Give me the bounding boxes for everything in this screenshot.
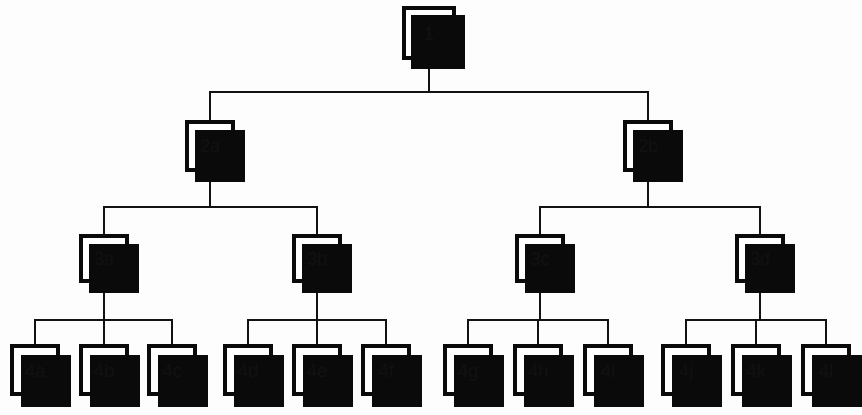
tree-node-4g[interactable]: 4g bbox=[443, 344, 493, 396]
connector-2b-bus bbox=[539, 206, 760, 208]
tree-diagram-canvas: 1 2a 2b 3a 3b 3c 3d 4a 4b 4c 4d bbox=[0, 0, 862, 415]
tree-node-label: 2b bbox=[638, 137, 658, 155]
connector-drop-2b bbox=[647, 91, 649, 121]
tree-node-4k[interactable]: 4k bbox=[731, 344, 781, 396]
connector-2a-bus bbox=[103, 206, 318, 208]
tree-node-label: 3a bbox=[94, 250, 114, 268]
connector-drop-4g bbox=[467, 319, 469, 345]
tree-node-label: 4d bbox=[238, 361, 259, 380]
tree-node-label: 4a bbox=[25, 361, 46, 380]
connector-drop-4b bbox=[103, 319, 105, 345]
tree-node-label: 2a bbox=[200, 137, 220, 155]
tree-node-4f[interactable]: 4f bbox=[361, 344, 411, 396]
tree-node-label: 3b bbox=[307, 250, 327, 268]
connector-drop-4d bbox=[247, 319, 249, 345]
connector-drop-3a bbox=[103, 206, 105, 235]
tree-node-label: 4e bbox=[307, 361, 328, 380]
tree-node-label: 4i bbox=[601, 361, 615, 380]
tree-node-1[interactable]: 1 bbox=[402, 6, 456, 60]
connector-root-bus bbox=[209, 91, 649, 93]
tree-node-label: 4b bbox=[94, 361, 115, 380]
tree-node-label: 4f bbox=[378, 361, 393, 380]
connector-drop-4a bbox=[34, 319, 36, 345]
tree-node-3d[interactable]: 3d bbox=[735, 234, 785, 283]
connector-drop-4e bbox=[316, 319, 318, 345]
tree-node-3a[interactable]: 3a bbox=[79, 234, 129, 283]
node-shadow bbox=[411, 15, 465, 69]
tree-node-4a[interactable]: 4a bbox=[10, 344, 60, 396]
connector-drop-3d bbox=[759, 206, 761, 235]
tree-node-3c[interactable]: 3c bbox=[515, 234, 565, 283]
connector-drop-3c bbox=[539, 206, 541, 235]
tree-node-4c[interactable]: 4c bbox=[147, 344, 197, 396]
connector-drop-4c bbox=[171, 319, 173, 345]
connector-drop-4l bbox=[825, 319, 827, 345]
tree-node-label: 4j bbox=[679, 361, 693, 380]
tree-node-label: 1 bbox=[424, 24, 434, 43]
connector-drop-2a bbox=[209, 91, 211, 121]
connector-drop-4i bbox=[607, 319, 609, 345]
tree-node-label: 3c bbox=[531, 250, 550, 268]
tree-node-4b[interactable]: 4b bbox=[79, 344, 129, 396]
tree-node-4j[interactable]: 4j bbox=[661, 344, 711, 396]
tree-node-label: 4k bbox=[746, 361, 766, 380]
tree-node-2a[interactable]: 2a bbox=[185, 120, 235, 172]
tree-node-label: 3d bbox=[750, 250, 770, 268]
tree-node-4i[interactable]: 4i bbox=[583, 344, 633, 396]
connector-drop-4j bbox=[685, 319, 687, 345]
tree-node-2b[interactable]: 2b bbox=[623, 120, 673, 172]
tree-node-label: 4h bbox=[528, 361, 549, 380]
tree-node-4l[interactable]: 4l bbox=[801, 344, 851, 396]
connector-drop-4k bbox=[755, 319, 757, 345]
tree-node-label: 4c bbox=[162, 361, 182, 380]
tree-node-3b[interactable]: 3b bbox=[292, 234, 342, 283]
tree-node-4d[interactable]: 4d bbox=[223, 344, 273, 396]
tree-node-label: 4g bbox=[458, 361, 479, 380]
connector-drop-4f bbox=[385, 319, 387, 345]
connector-drop-3b bbox=[316, 206, 318, 235]
connector-drop-4h bbox=[537, 319, 539, 345]
tree-node-label: 4l bbox=[819, 361, 833, 380]
tree-node-4h[interactable]: 4h bbox=[513, 344, 563, 396]
tree-node-4e[interactable]: 4e bbox=[292, 344, 342, 396]
